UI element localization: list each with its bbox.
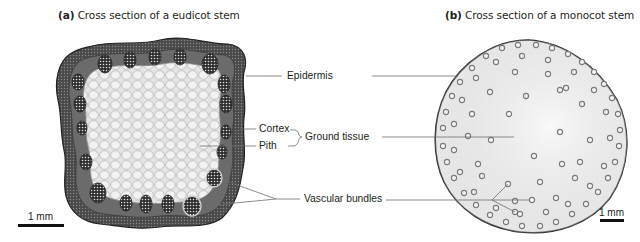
scale-bar-b [600, 219, 624, 222]
stem-cross-sections-illustration [0, 0, 640, 242]
monocot-stem [435, 40, 627, 233]
label-cortex: Cortex [259, 123, 289, 135]
label-epidermis: Epidermis [287, 70, 333, 82]
scale-bar-b-label: 1 mm [599, 207, 624, 218]
scale-bar-a [18, 224, 64, 227]
scale-bar-a-label: 1 mm [28, 211, 53, 222]
label-ground-tissue: Ground tissue [305, 131, 369, 143]
eudicot-stem [57, 38, 246, 228]
label-vascular-bundles: Vascular bundles [304, 193, 382, 205]
label-pith: Pith [259, 140, 277, 152]
